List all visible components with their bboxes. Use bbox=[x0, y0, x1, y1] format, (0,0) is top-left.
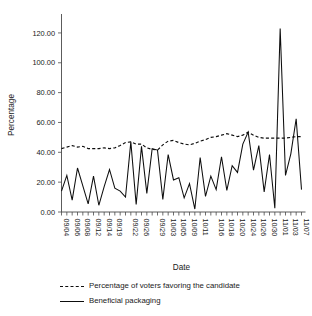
x-tick-label: 11/07 bbox=[302, 219, 310, 236]
x-tick-label: 10/03 bbox=[169, 219, 177, 237]
y-tick-label: 60.00 bbox=[37, 118, 56, 127]
x-axis-title: Date bbox=[173, 263, 191, 272]
x-tick-label: 09/12 bbox=[94, 219, 102, 237]
y-tick-label: 0.00 bbox=[41, 208, 55, 217]
y-tick-label: 40.00 bbox=[37, 148, 56, 157]
y-tick-label: 20.00 bbox=[37, 178, 56, 187]
x-tick-label: 09/26 bbox=[142, 219, 150, 237]
chart-container: 0.0020.0040.0060.0080.00100.00120.00 09/… bbox=[0, 0, 312, 316]
line-chart-plot: 0.0020.0040.0060.0080.00100.00120.00 09/… bbox=[0, 0, 312, 316]
y-axis-title: Percentage bbox=[7, 94, 16, 136]
dashed-line-swatch-icon bbox=[60, 281, 84, 290]
y-tick-label: 100.00 bbox=[32, 58, 55, 67]
x-tick-label: 09/22 bbox=[131, 219, 139, 237]
x-tick-label: 09/08 bbox=[83, 219, 91, 237]
x-tick-label: 09/14 bbox=[105, 219, 113, 237]
x-tick-label: 10/09 bbox=[190, 219, 198, 237]
x-tick-label: 10/30 bbox=[270, 219, 278, 237]
legend-label-voters: Percentage of voters favoring the candid… bbox=[89, 281, 240, 290]
x-tick-label: 09/06 bbox=[73, 219, 81, 237]
x-tick-label: 10/26 bbox=[259, 219, 267, 237]
y-tick-label: 120.00 bbox=[32, 29, 55, 38]
y-axis-ticks: 0.0020.0040.0060.0080.00100.00120.00 bbox=[32, 29, 61, 217]
legend-item-packaging: Beneficial packaging bbox=[60, 296, 161, 305]
series-line-voters bbox=[62, 132, 302, 150]
y-tick-label: 80.00 bbox=[37, 88, 56, 97]
x-tick-label: 10/20 bbox=[238, 219, 246, 237]
x-tick-label: 10/16 bbox=[217, 219, 225, 237]
axis-spines bbox=[62, 14, 306, 212]
legend-item-voters: Percentage of voters favoring the candid… bbox=[60, 281, 240, 290]
solid-line-swatch-icon bbox=[60, 296, 84, 305]
x-axis-ticks: 09/0409/0609/0809/1209/1409/1909/2209/26… bbox=[62, 212, 311, 236]
legend-label-packaging: Beneficial packaging bbox=[89, 296, 161, 305]
x-tick-label: 10/24 bbox=[249, 219, 257, 237]
x-tick-label: 09/29 bbox=[158, 219, 166, 237]
x-tick-label: 09/04 bbox=[62, 219, 70, 237]
x-tick-label: 09/19 bbox=[115, 219, 123, 237]
x-tick-label: 10/05 bbox=[179, 219, 187, 237]
x-tick-label: 11/01 bbox=[281, 219, 289, 236]
series-line-packaging bbox=[62, 28, 302, 209]
x-tick-label: 10/11 bbox=[201, 219, 209, 236]
x-tick-label: 11/03 bbox=[291, 219, 299, 236]
x-tick-label: 10/18 bbox=[227, 219, 235, 237]
